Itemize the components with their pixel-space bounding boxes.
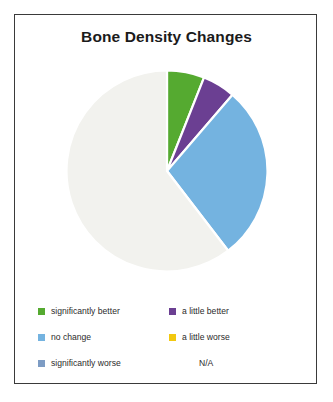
- legend-row: no changea little worse: [38, 324, 300, 350]
- legend-item[interactable]: significantly worse: [38, 350, 169, 376]
- legend-item[interactable]: significantly better: [38, 298, 169, 324]
- page-title: Bone Density Changes: [0, 27, 333, 47]
- legend-item-label: no change: [51, 332, 91, 342]
- legend-color-swatch-icon: [38, 308, 45, 315]
- legend-item-label: N/A: [199, 358, 213, 368]
- legend-item-label: significantly worse: [51, 358, 121, 368]
- chart-page: Bone Density Changes significantly bette…: [0, 0, 333, 402]
- legend-item-label: a little better: [182, 306, 229, 316]
- legend-row: significantly worseN/A: [38, 350, 300, 376]
- legend-color-swatch-icon: [169, 308, 176, 315]
- legend-item[interactable]: no change: [38, 324, 169, 350]
- legend-item[interactable]: a little worse: [169, 324, 300, 350]
- legend-color-swatch-icon: [38, 360, 45, 367]
- legend-item-label: significantly better: [51, 306, 120, 316]
- pie-slice-group: [66, 70, 267, 271]
- chart-legend: significantly bettera little betterno ch…: [38, 298, 300, 376]
- pie-chart-svg: [66, 70, 268, 272]
- legend-item-label: a little worse: [182, 332, 230, 342]
- legend-item[interactable]: a little better: [169, 298, 300, 324]
- legend-item[interactable]: N/A: [169, 350, 300, 376]
- legend-row: significantly bettera little better: [38, 298, 300, 324]
- pie-chart: [66, 70, 268, 272]
- legend-color-swatch-icon: [169, 334, 176, 341]
- legend-color-swatch-icon: [38, 334, 45, 341]
